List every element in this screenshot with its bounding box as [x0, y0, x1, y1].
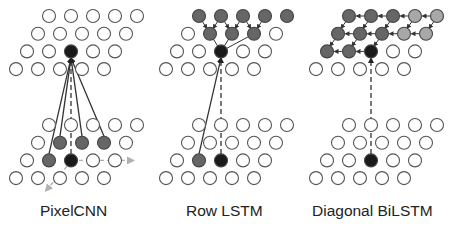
- connection-arrow: [374, 39, 379, 46]
- pixel-node: [248, 172, 261, 185]
- pixel-node: [32, 27, 45, 40]
- pixel-node: [259, 119, 272, 132]
- pixel-node: [109, 10, 122, 23]
- context-pixel: [237, 10, 250, 23]
- connection-arrow: [429, 22, 434, 29]
- pixel-node: [120, 27, 133, 40]
- pixel-node: [76, 27, 89, 40]
- context-pixel: [343, 10, 356, 23]
- pixel-node: [354, 63, 367, 76]
- context-pixel: [76, 136, 89, 149]
- pixel-node: [237, 119, 250, 132]
- connection-arrow: [363, 22, 368, 29]
- context-pixel: [98, 136, 111, 149]
- pixel-node: [54, 27, 67, 40]
- context-pixel: [193, 10, 206, 23]
- current-pixel: [365, 45, 378, 58]
- diagram: PixelCNN Row LSTM Diagonal BiLSTM: [0, 0, 449, 229]
- context-pixel: [398, 27, 411, 40]
- pixel-node: [160, 63, 173, 76]
- context-pixel: [321, 45, 334, 58]
- pixel-node: [387, 119, 400, 132]
- context-pixel: [43, 154, 56, 167]
- pixel-node: [182, 63, 195, 76]
- label-diagonal-bilstm: Diagonal BiLSTM: [312, 202, 433, 220]
- context-pixel: [420, 27, 433, 40]
- context-pixel: [193, 154, 206, 167]
- context-pixel: [343, 45, 356, 58]
- pixel-node: [32, 172, 45, 185]
- current-pixel: [215, 154, 228, 167]
- pixel-node: [409, 154, 422, 167]
- pixel-node: [171, 154, 184, 167]
- pixel-node: [131, 119, 144, 132]
- pixel-node: [87, 119, 100, 132]
- pixel-node: [87, 45, 100, 58]
- pixel-node: [109, 154, 122, 167]
- connection-arrow: [341, 22, 346, 29]
- current-pixel: [365, 154, 378, 167]
- pixel-node: [354, 172, 367, 185]
- pixel-node: [54, 172, 67, 185]
- context-pixel: [431, 10, 444, 23]
- pixel-node: [343, 119, 356, 132]
- pixel-node: [226, 136, 239, 149]
- pixel-node: [204, 172, 217, 185]
- pixel-node: [270, 27, 283, 40]
- connection-arrow: [352, 39, 357, 46]
- current-pixel: [65, 45, 78, 58]
- pixel-node: [43, 10, 56, 23]
- pixel-node: [332, 172, 345, 185]
- pixel-node: [98, 63, 111, 76]
- pixel-node: [248, 136, 261, 149]
- pixel-node: [376, 63, 389, 76]
- pixel-node: [354, 136, 367, 149]
- label-pixelcnn: PixelCNN: [40, 202, 107, 220]
- pixel-node: [21, 154, 34, 167]
- pixel-node: [259, 154, 272, 167]
- pixel-node: [43, 119, 56, 132]
- pixel-node: [32, 63, 45, 76]
- connection-arrow: [330, 39, 335, 46]
- pixel-node: [76, 63, 89, 76]
- pixel-node: [160, 172, 173, 185]
- pixel-node: [387, 45, 400, 58]
- pixel-node: [365, 119, 378, 132]
- pixel-node: [171, 45, 184, 58]
- context-pixel: [387, 10, 400, 23]
- context-pixel: [204, 27, 217, 40]
- pixel-node: [10, 63, 23, 76]
- pixel-node: [109, 45, 122, 58]
- context-pixel: [409, 10, 422, 23]
- pixel-node: [65, 119, 78, 132]
- pixel-node: [281, 119, 294, 132]
- pixel-node: [270, 136, 283, 149]
- pixel-node: [98, 27, 111, 40]
- pixel-node: [98, 172, 111, 185]
- pixel-node: [65, 10, 78, 23]
- pixel-node: [343, 154, 356, 167]
- pixel-node: [215, 119, 228, 132]
- context-pixel: [376, 27, 389, 40]
- pixel-node: [237, 45, 250, 58]
- grids: [10, 10, 444, 191]
- pixel-node: [32, 136, 45, 149]
- pixel-node: [398, 63, 411, 76]
- label-row-lstm: Row LSTM: [186, 202, 263, 220]
- pixel-node: [420, 136, 433, 149]
- pixel-node: [193, 45, 206, 58]
- pixel-node: [398, 136, 411, 149]
- pixel-node: [10, 172, 23, 185]
- connection-arrow: [385, 22, 390, 29]
- pixel-node: [21, 45, 34, 58]
- pixel-node: [87, 10, 100, 23]
- pixel-node: [387, 154, 400, 167]
- pixel-node: [193, 119, 206, 132]
- pixel-node: [182, 172, 195, 185]
- pixel-node: [310, 63, 323, 76]
- pixel-node: [376, 136, 389, 149]
- pixel-node: [332, 136, 345, 149]
- context-pixel: [226, 27, 239, 40]
- receptive-field-diagram: [0, 0, 449, 229]
- pixel-node: [259, 45, 272, 58]
